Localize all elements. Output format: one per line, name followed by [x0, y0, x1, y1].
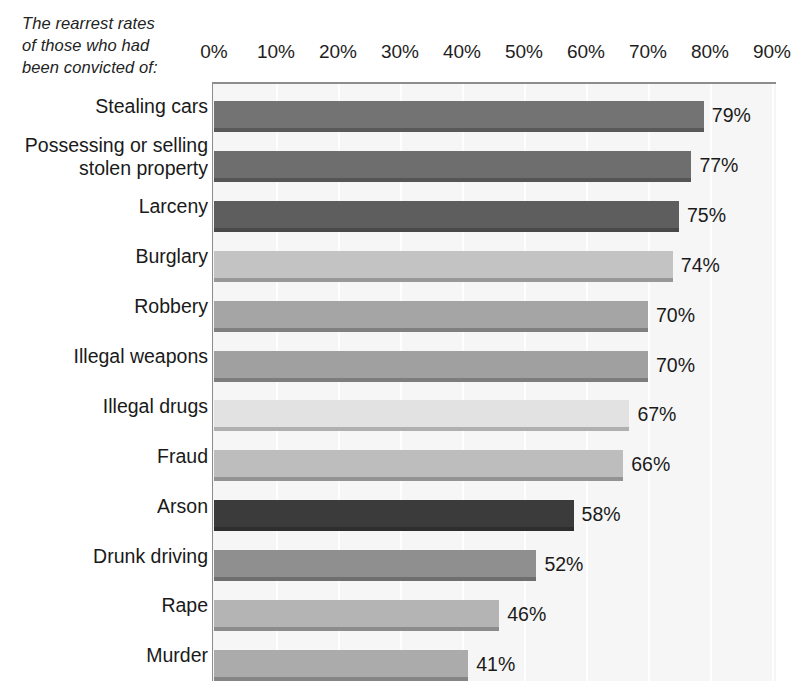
category-label-line: Possessing or selling: [25, 134, 208, 157]
x-tick-label: 60%: [567, 41, 605, 63]
bar-row: Stealing cars79%: [0, 82, 801, 132]
x-tick-label: 0%: [200, 41, 227, 63]
x-tick-label: 40%: [443, 41, 481, 63]
category-label: Fraud: [157, 431, 208, 481]
category-label-line: stolen property: [79, 157, 208, 180]
bar: [214, 151, 691, 182]
bar: [214, 251, 673, 282]
category-label-line: Fraud: [157, 445, 208, 468]
bar-value-label: 67%: [637, 399, 676, 430]
bar-row: Murder41%: [0, 631, 801, 681]
category-label: Illegal weapons: [74, 332, 208, 382]
bar-value-label: 79%: [712, 100, 751, 131]
category-label-line: Robbery: [134, 295, 208, 318]
category-label: Stealing cars: [95, 82, 208, 132]
bar-row: Arson58%: [0, 481, 801, 531]
category-label: Drunk driving: [93, 531, 208, 581]
x-tick-label: 50%: [505, 41, 543, 63]
category-label: Possessing or sellingstolen property: [25, 132, 208, 182]
x-tick-label: 30%: [381, 41, 419, 63]
category-label-line: Stealing cars: [95, 95, 208, 118]
bar-row: Illegal weapons70%: [0, 332, 801, 382]
bar: [214, 650, 468, 681]
category-label: Burglary: [135, 232, 208, 282]
x-tick-label: 90%: [753, 41, 791, 63]
bar-row: Illegal drugs67%: [0, 381, 801, 431]
x-tick-label: 80%: [691, 41, 729, 63]
bar-value-label: 58%: [582, 499, 621, 530]
bar: [214, 201, 679, 232]
x-tick-label: 70%: [629, 41, 667, 63]
category-label-line: Arson: [157, 495, 208, 518]
bar-value-label: 74%: [681, 250, 720, 281]
category-label-line: Illegal weapons: [74, 345, 208, 368]
category-label: Illegal drugs: [103, 381, 208, 431]
x-tick-label: 10%: [257, 41, 295, 63]
bar: [214, 400, 629, 431]
category-label-line: Drunk driving: [93, 545, 208, 568]
bar: [214, 550, 536, 581]
bar-row: Possessing or sellingstolen property77%: [0, 132, 801, 182]
category-label: Robbery: [134, 282, 208, 332]
category-label: Larceny: [139, 182, 208, 232]
category-label: Murder: [146, 631, 208, 681]
bar: [214, 101, 704, 132]
bar: [214, 301, 648, 332]
bar-row: Larceny75%: [0, 182, 801, 232]
bar-value-label: 70%: [656, 300, 695, 331]
bar-value-label: 70%: [656, 350, 695, 381]
x-axis: 0%10%20%30%40%50%60%70%80%90%: [0, 41, 801, 67]
bar-rows: Stealing cars79%Possessing or sellingsto…: [0, 82, 801, 681]
bar-value-label: 46%: [507, 599, 546, 630]
category-label-line: Murder: [146, 644, 208, 667]
category-label-line: Illegal drugs: [103, 395, 208, 418]
caption-line-1: The rearrest rates: [22, 12, 208, 34]
bar: [214, 450, 623, 481]
bar-row: Burglary74%: [0, 232, 801, 282]
category-label-line: Burglary: [135, 245, 208, 268]
bar-row: Robbery70%: [0, 282, 801, 332]
bar-value-label: 66%: [631, 449, 670, 480]
bar-value-label: 52%: [544, 549, 583, 580]
category-label: Arson: [157, 481, 208, 531]
bar-row: Drunk driving52%: [0, 531, 801, 581]
bar-value-label: 41%: [476, 649, 515, 680]
category-label-line: Larceny: [139, 195, 208, 218]
category-label: Rape: [161, 581, 208, 631]
bar-row: Rape46%: [0, 581, 801, 631]
bar: [214, 351, 648, 382]
bar-value-label: 75%: [687, 200, 726, 231]
bar-row: Fraud66%: [0, 431, 801, 481]
category-label-line: Rape: [161, 594, 208, 617]
x-tick-label: 20%: [319, 41, 357, 63]
bar-value-label: 77%: [699, 150, 738, 181]
bar: [214, 500, 574, 531]
bar: [214, 600, 499, 631]
bar-chart: The rearrest rates of those who had been…: [0, 0, 801, 694]
